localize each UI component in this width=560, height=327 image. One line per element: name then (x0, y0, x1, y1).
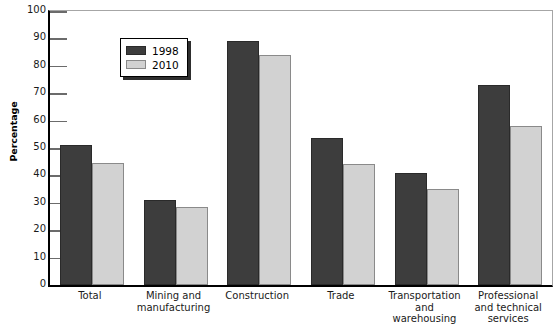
bar (60, 145, 92, 285)
bar (343, 164, 375, 285)
x-axis-label: Trade (299, 290, 383, 302)
bar (176, 207, 208, 285)
y-tick-label: 30 (16, 196, 46, 207)
x-axis-label: Construction (215, 290, 299, 302)
y-tick-label: 60 (16, 114, 46, 125)
bar-group (311, 11, 375, 285)
bar (144, 200, 176, 285)
bar-group (60, 11, 124, 285)
legend-item-2010: 2010 (126, 58, 179, 71)
x-axis-label: Professionaland technicalservices (466, 290, 550, 325)
y-tick-label: 0 (16, 278, 46, 289)
bar (227, 41, 259, 285)
bar (259, 55, 291, 285)
bar-group (227, 11, 291, 285)
bar (311, 138, 343, 285)
bar (395, 173, 427, 285)
bar (427, 189, 459, 285)
legend-swatch-1998 (126, 46, 146, 55)
legend-label-1998: 1998 (152, 45, 179, 57)
y-tick-label: 20 (16, 223, 46, 234)
legend-label-2010: 2010 (152, 59, 179, 71)
plot-area: 1009080706050403020100 1998 2010 (48, 10, 553, 287)
bar (92, 163, 124, 285)
x-axis-label: Total (48, 290, 132, 302)
x-axis-label: Transportationandwarehousing (383, 290, 467, 325)
y-tick-label: 90 (16, 31, 46, 42)
y-tick-label: 50 (16, 141, 46, 152)
bar-group (395, 11, 459, 285)
legend-item-1998: 1998 (126, 44, 179, 57)
bar (510, 126, 542, 285)
y-tick-label: 100 (16, 4, 46, 15)
legend-swatch-2010 (126, 60, 146, 69)
bar-chart: Percentage 1009080706050403020100 1998 2… (0, 0, 560, 327)
x-axis-label: Mining andmanufacturing (132, 290, 216, 313)
bar (478, 85, 510, 285)
y-tick-label: 10 (16, 251, 46, 262)
chart-legend: 1998 2010 (120, 38, 188, 77)
y-tick-label: 80 (16, 59, 46, 70)
y-tick-label: 40 (16, 168, 46, 179)
y-tick-label: 70 (16, 86, 46, 97)
y-axis-title: Percentage (8, 87, 19, 177)
x-axis-labels: TotalMining andmanufacturingConstruction… (48, 290, 550, 327)
bar-group (478, 11, 542, 285)
